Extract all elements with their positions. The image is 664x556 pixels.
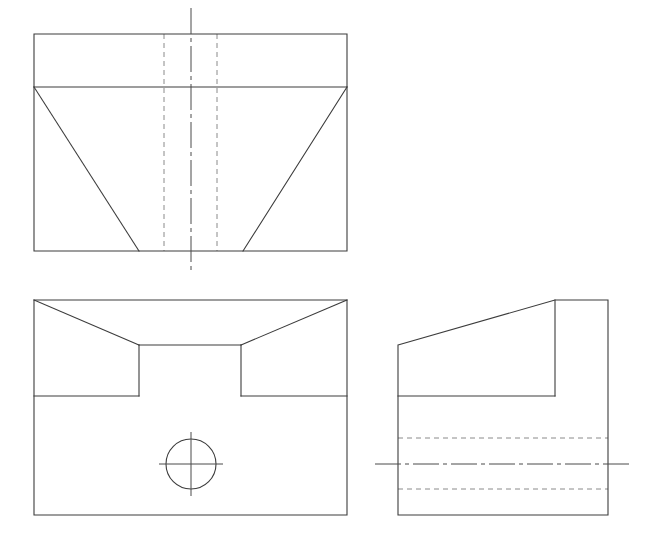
right-side-view (375, 300, 633, 515)
drawing-sheet (0, 0, 664, 556)
right-side-view-face (398, 300, 608, 515)
technical-drawing-canvas (0, 0, 664, 556)
top-view (34, 8, 347, 272)
front-view (34, 300, 347, 515)
